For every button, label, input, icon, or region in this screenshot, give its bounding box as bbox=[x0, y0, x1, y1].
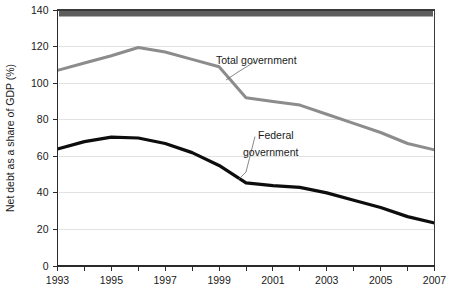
x-tick-label-2003: 2003 bbox=[315, 274, 339, 286]
x-tick-label-2007: 2007 bbox=[423, 274, 447, 286]
y-axis-group: 020406080100120140 bbox=[31, 4, 58, 272]
y-tick-label-100: 100 bbox=[31, 77, 49, 89]
y-axis-title: Net debt as a share of GDP (%) bbox=[4, 64, 16, 212]
y-tick-label-40: 40 bbox=[37, 186, 49, 198]
x-tick-label-1993: 1993 bbox=[46, 274, 70, 286]
net-debt-line-chart: Total government Federal government 0204… bbox=[0, 0, 449, 298]
y-tick-label-60: 60 bbox=[37, 150, 49, 162]
y-tick-label-20: 20 bbox=[37, 223, 49, 235]
top-scan-band bbox=[59, 11, 433, 17]
x-tick-label-2001: 2001 bbox=[261, 274, 285, 286]
annotation-total-government: Total government bbox=[216, 54, 297, 66]
x-tick-label-1995: 1995 bbox=[100, 274, 124, 286]
annotation-federal-line1: Federal bbox=[258, 129, 294, 141]
y-tick-label-0: 0 bbox=[43, 260, 49, 272]
annotation-federal-line2: government bbox=[243, 146, 299, 158]
x-tick-label-1997: 1997 bbox=[154, 274, 178, 286]
x-axis-group: 19931995199719992001200320052007 bbox=[46, 266, 447, 286]
y-tick-label-120: 120 bbox=[31, 40, 49, 52]
x-tick-label-2005: 2005 bbox=[369, 274, 393, 286]
x-tick-label-1999: 1999 bbox=[207, 274, 231, 286]
chart-container: Total government Federal government 0204… bbox=[0, 0, 449, 298]
y-tick-label-80: 80 bbox=[37, 113, 49, 125]
y-tick-label-140: 140 bbox=[31, 4, 49, 16]
